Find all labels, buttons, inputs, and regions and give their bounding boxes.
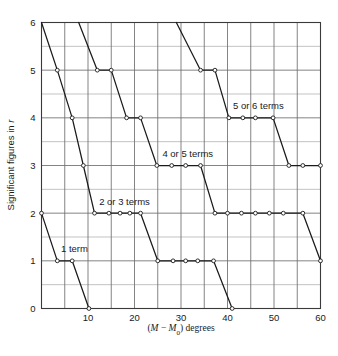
data-point-marker — [212, 259, 216, 263]
series-annotation: 2 or 3 terms — [99, 196, 150, 207]
series-annotation: 4 or 5 terms — [162, 148, 213, 159]
data-point-marker — [93, 211, 97, 215]
data-point-marker — [40, 211, 44, 215]
y-tick-label: 1 — [30, 255, 35, 266]
data-point-marker — [196, 259, 200, 263]
data-point-marker — [70, 116, 74, 120]
data-point-marker — [301, 164, 305, 168]
data-point-marker — [70, 259, 74, 263]
x-tick-label: 40 — [222, 312, 233, 323]
data-point-marker — [254, 211, 258, 215]
data-point-marker — [240, 211, 244, 215]
data-point-marker — [319, 259, 323, 263]
data-point-marker — [199, 164, 203, 168]
y-tick-label: 4 — [30, 112, 35, 123]
data-point-marker — [81, 164, 85, 168]
svg-text:Significant figures in r: Significant figures in r — [5, 119, 16, 211]
data-point-marker — [199, 68, 203, 72]
series-annotation: 1 term — [61, 243, 88, 254]
series-annotation: 5 or 6 terms — [233, 100, 284, 111]
x-axis-title: (M − M0) degrees — [147, 323, 214, 337]
data-point-marker — [125, 116, 129, 120]
x-tick-labels: 102030405060 — [83, 312, 326, 323]
data-point-marker — [227, 116, 231, 120]
y-axis-title: Significant figures in r — [5, 119, 16, 211]
x-tick-label: 50 — [269, 312, 280, 323]
data-point-marker — [254, 116, 258, 120]
data-point-marker — [109, 68, 113, 72]
data-point-marker — [95, 68, 99, 72]
data-point-marker — [213, 211, 217, 215]
chart-figure: 102030405060 0123456 1 term2 or 3 terms4… — [0, 0, 338, 356]
y-tick-label: 0 — [30, 303, 35, 314]
x-tick-label: 60 — [315, 312, 326, 323]
data-point-marker — [281, 211, 285, 215]
y-tick-label: 6 — [30, 17, 35, 28]
y-tick-labels: 0123456 — [30, 17, 35, 314]
data-point-marker — [301, 211, 305, 215]
data-point-marker — [55, 259, 59, 263]
data-point-marker — [55, 68, 59, 72]
data-point-marker — [139, 211, 143, 215]
data-point-marker — [171, 259, 175, 263]
data-point-marker — [87, 307, 91, 311]
data-point-marker — [156, 259, 160, 263]
x-tick-label: 20 — [129, 312, 140, 323]
data-point-marker — [319, 164, 323, 168]
data-point-marker — [128, 211, 132, 215]
svg-text:(M − M0) degrees: (M − M0) degrees — [147, 323, 214, 337]
data-point-marker — [267, 211, 271, 215]
data-point-marker — [170, 164, 174, 168]
x-tick-label: 30 — [176, 312, 187, 323]
data-point-marker — [184, 164, 188, 168]
y-tick-label: 3 — [30, 160, 35, 171]
data-point-marker — [213, 68, 217, 72]
data-point-marker — [118, 211, 122, 215]
data-point-marker — [271, 116, 275, 120]
data-point-marker — [226, 211, 230, 215]
data-point-marker — [184, 259, 188, 263]
y-tick-label: 2 — [30, 208, 35, 219]
data-point-marker — [287, 164, 291, 168]
data-point-marker — [107, 211, 111, 215]
x-tick-label: 10 — [83, 312, 94, 323]
data-point-marker — [241, 116, 245, 120]
data-point-marker — [230, 307, 234, 311]
data-point-marker — [155, 164, 159, 168]
y-tick-label: 5 — [30, 65, 35, 76]
data-point-marker — [139, 116, 143, 120]
chart-svg: 102030405060 0123456 1 term2 or 3 terms4… — [0, 0, 338, 356]
